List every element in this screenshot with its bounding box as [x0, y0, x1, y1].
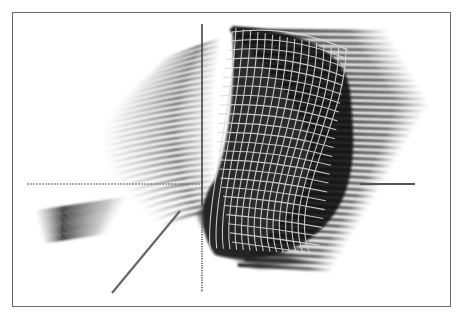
diagonal-axis	[112, 211, 180, 293]
surface-lower-wing	[35, 198, 128, 242]
surface-plot	[0, 0, 466, 318]
